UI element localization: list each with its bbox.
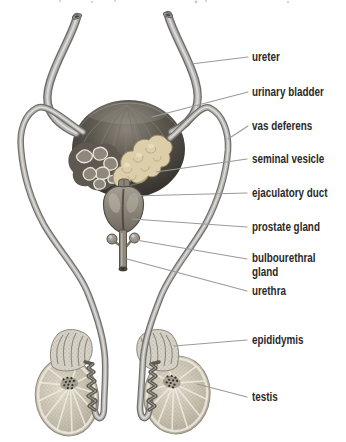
label-ejaculatory-duct: ejaculatory duct [252,186,328,200]
cropped-text-artifact [59,0,289,3]
urethra-tube [119,230,127,271]
label-epididymis: epididymis [252,333,303,347]
label-prostate-gland: prostate gland [252,220,320,234]
label-testis: testis [252,390,278,404]
label-vas-deferens: vas deferens [252,119,312,133]
diagram-canvas: ureter urinary bladder vas deferens semi… [0,0,346,442]
label-seminal-vesicle: seminal vesicle [252,152,324,166]
label-urethra: urethra [252,284,286,298]
ureter-left [47,13,82,133]
leader-epididymis [174,340,247,346]
prostate-gland-body [104,186,144,233]
leader-vas-deferens [228,126,248,139]
leader-prostate-gland [132,219,247,227]
label-urinary-bladder: urinary bladder [252,85,324,99]
label-bulbourethral-gland: bulbourethral gland [252,251,329,279]
leader-urethra [127,259,247,291]
label-ureter: ureter [252,50,280,64]
leader-ureter [191,57,248,64]
epididymis-left [50,330,92,371]
